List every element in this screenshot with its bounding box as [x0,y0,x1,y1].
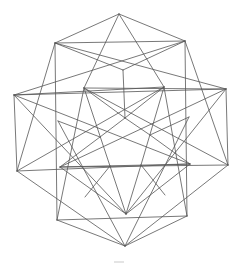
diagram-edge [126,89,226,214]
diagram-edge [55,43,123,70]
diagram-edge [164,87,187,216]
diagram-edge [126,164,190,214]
diagram-edge [17,43,55,171]
diagram-edge [125,117,189,246]
diagram-edge [57,216,187,220]
diagram-edge [58,121,125,246]
diagram-edge [141,87,164,165]
diagram-edge [150,135,190,164]
diagram-edge [55,41,185,43]
diagram-edge [84,88,226,89]
diagram-edge [17,171,125,246]
diagram-edge [185,41,228,165]
diagram-edge [14,95,190,164]
diagram-edge [125,165,228,246]
diagram-edge [57,220,125,246]
diagram-edge [84,14,119,88]
diagram-edge [119,14,164,87]
diagram-edge [57,88,84,220]
diagram-edge [60,89,226,167]
diagram-edge [85,166,110,197]
diagram-edge [119,14,185,41]
diagram-edge [55,43,57,220]
diagram-edge [123,70,125,118]
diagram-edge [100,118,125,137]
diagram-edge [226,89,228,165]
star-polyhedron-diagram [0,0,239,265]
diagram-edge [123,41,185,70]
diagram-edge [110,166,126,214]
diagram-edge [14,89,226,95]
diagram-edge [60,167,126,214]
diagram-edges [14,14,228,246]
diagram-edge [55,43,226,89]
diagram-edge [126,165,141,214]
diagram-edge [14,95,17,171]
diagram-edge [185,41,187,216]
diagram-edge [17,87,164,171]
diagram-edge [125,216,187,246]
diagram-edge [58,121,100,137]
diagram-edge [55,14,119,43]
